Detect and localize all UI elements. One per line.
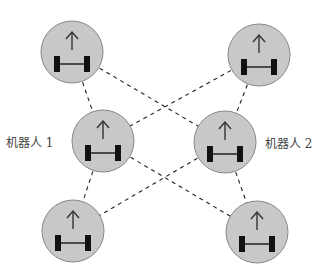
robot-1-label: 机器人 1 (6, 133, 53, 150)
robot-body (42, 200, 104, 262)
robot-bl (42, 200, 104, 262)
robot-body (226, 201, 288, 263)
robot-ml (72, 110, 134, 172)
robot-body (41, 21, 103, 83)
robot-body (194, 111, 256, 173)
robot-mr (194, 111, 256, 173)
robot-body (72, 110, 134, 172)
robot-body (228, 24, 290, 86)
robot-br (226, 201, 288, 263)
robot-tl (41, 21, 103, 83)
robot-tr (228, 24, 290, 86)
robot-2-label: 机器人 2 (265, 134, 312, 151)
